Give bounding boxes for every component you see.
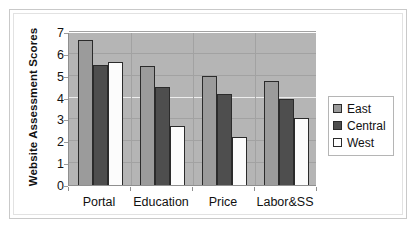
x-axis-label-price: Price	[209, 195, 237, 209]
x-axis-tick-mark	[316, 187, 317, 191]
category-separator	[255, 33, 256, 185]
y-axis-tick-label: 0	[46, 179, 64, 193]
chart-figure: Website Assessment Scores 76543210 EastC…	[9, 9, 407, 219]
gridline	[69, 31, 316, 32]
x-axis-tick-mark	[68, 187, 69, 191]
bar-labor-ss-east[interactable]	[264, 81, 279, 185]
bar-portal-central[interactable]	[93, 65, 108, 185]
x-axis-tick-mark	[192, 187, 193, 191]
legend-item-central[interactable]: Central	[333, 117, 389, 134]
bar-labor-ss-central[interactable]	[279, 99, 294, 185]
bar-price-east[interactable]	[202, 76, 217, 185]
x-axis-label-portal: Portal	[83, 195, 116, 209]
legend-item-east[interactable]: East	[333, 100, 389, 117]
y-axis-tick-label: 1	[46, 157, 64, 171]
y-axis-tick-labels: 76543210	[46, 26, 64, 194]
bar-education-central[interactable]	[155, 87, 170, 185]
legend-label: Central	[347, 119, 386, 133]
category-separator	[193, 33, 194, 185]
bar-group	[69, 33, 131, 185]
y-axis-tick-label: 2	[46, 135, 64, 149]
legend-item-west[interactable]: West	[333, 134, 389, 151]
y-axis-tick-label: 3	[46, 113, 64, 127]
bar-group	[255, 33, 317, 185]
x-axis-tick-mark	[254, 187, 255, 191]
category-separator	[131, 33, 132, 185]
legend-label: East	[347, 102, 371, 116]
y-axis-tick-label: 4	[46, 92, 64, 106]
legend-swatch-central	[333, 121, 342, 130]
plot-area	[68, 33, 316, 186]
y-axis-tick-label: 7	[46, 26, 64, 40]
x-axis-label-education: Education	[133, 195, 189, 209]
bar-price-west[interactable]	[232, 137, 247, 185]
x-axis-tick-mark	[130, 187, 131, 191]
y-axis-tick-label: 6	[46, 48, 64, 62]
bar-labor-ss-west[interactable]	[294, 118, 309, 185]
bar-portal-east[interactable]	[78, 40, 93, 185]
legend-label: West	[347, 136, 374, 150]
legend-swatch-east	[333, 104, 342, 113]
bar-group	[131, 33, 193, 185]
bar-education-east[interactable]	[140, 66, 155, 185]
bar-group	[193, 33, 255, 185]
x-axis-label-labor-ss: Labor&SS	[257, 195, 314, 209]
chart-legend: EastCentralWest	[328, 96, 394, 156]
legend-swatch-west	[333, 138, 342, 147]
bar-portal-west[interactable]	[108, 62, 123, 185]
bar-price-central[interactable]	[217, 94, 232, 185]
bar-education-west[interactable]	[170, 126, 185, 185]
y-axis-tick-label: 5	[46, 70, 64, 84]
